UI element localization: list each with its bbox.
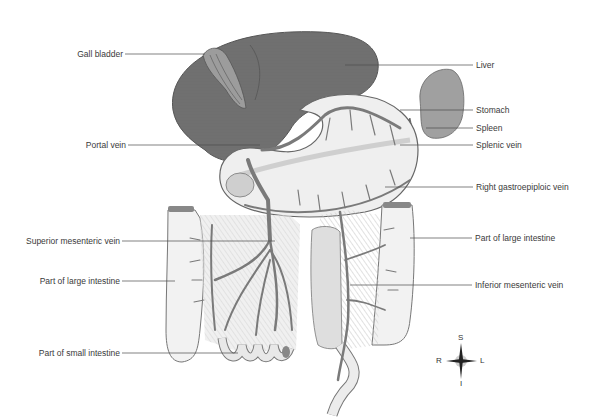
label-stomach: Stomach (476, 105, 510, 115)
label-part-of-small-intestine: Part of small intestine (39, 348, 120, 358)
label-spleen: Spleen (476, 123, 502, 133)
descending-colon (311, 202, 414, 415)
compass-superior: S (458, 333, 463, 342)
ascending-colon (166, 206, 204, 362)
label-portal-vein: Portal vein (86, 140, 126, 150)
label-liver: Liver (476, 60, 494, 70)
label-superior-mesenteric-vein: Superior mesenteric vein (26, 236, 120, 246)
label-splenic-vein: Splenic vein (476, 140, 522, 150)
label-inferior-mesenteric-vein: Inferior mesenteric vein (475, 280, 563, 290)
label-gall-bladder: Gall bladder (77, 49, 123, 59)
label-part-of-large-intestine-left: Part of large intestine (40, 276, 120, 286)
label-part-of-large-intestine-right: Part of large intestine (475, 233, 555, 243)
pancreas (226, 173, 254, 197)
compass-right: R (436, 356, 442, 365)
compass-inferior: I (460, 379, 462, 388)
orientation-compass (446, 343, 477, 379)
portal-circulation-diagram: Gall bladder Portal vein Superior mesent… (0, 0, 591, 420)
compass-left: L (480, 356, 484, 365)
label-right-gastroepiploic-vein: Right gastroepiploic vein (476, 182, 569, 192)
